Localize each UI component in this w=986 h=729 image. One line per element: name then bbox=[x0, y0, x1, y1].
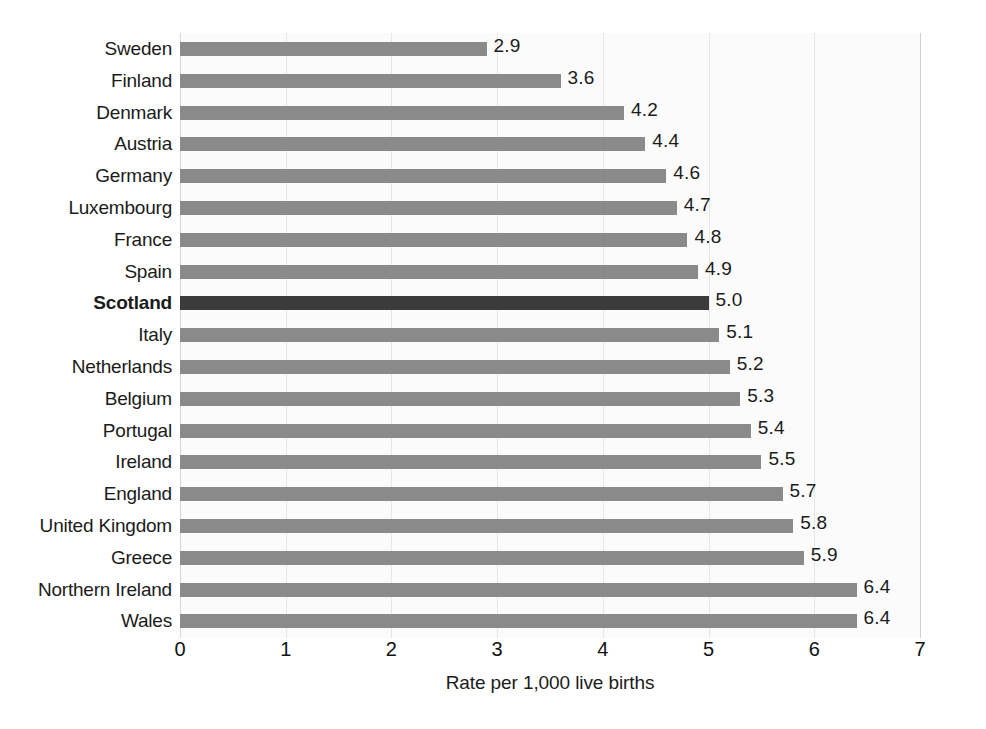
bar-value-label: 4.4 bbox=[652, 130, 679, 152]
x-tick-label: 6 bbox=[809, 638, 820, 661]
bar-value-label: 5.1 bbox=[726, 321, 753, 343]
bar-value-label: 4.7 bbox=[684, 194, 711, 216]
x-axis-title: Rate per 1,000 live births bbox=[180, 672, 920, 694]
bar-value-label: 4.9 bbox=[705, 258, 732, 280]
category-label: Wales bbox=[0, 605, 172, 637]
bar-row: 5.0 bbox=[180, 287, 920, 319]
bar-value-label: 5.8 bbox=[800, 512, 827, 534]
bar bbox=[180, 106, 624, 120]
x-tick-label: 5 bbox=[703, 638, 714, 661]
category-label: Sweden bbox=[0, 33, 172, 65]
x-axis-ticks: 01234567 bbox=[180, 638, 920, 672]
bar bbox=[180, 392, 740, 406]
category-axis-labels: SwedenFinlandDenmarkAustriaGermanyLuxemb… bbox=[0, 33, 172, 638]
bar-value-label: 4.8 bbox=[694, 226, 721, 248]
category-label: Spain bbox=[0, 256, 172, 288]
bar bbox=[180, 519, 793, 533]
bar bbox=[180, 455, 761, 469]
bar bbox=[180, 424, 751, 438]
bar-value-label: 6.4 bbox=[864, 607, 891, 629]
bar-row: 4.6 bbox=[180, 160, 920, 192]
x-tick-label: 1 bbox=[280, 638, 291, 661]
chart-figure: SwedenFinlandDenmarkAustriaGermanyLuxemb… bbox=[0, 0, 986, 729]
bar bbox=[180, 169, 666, 183]
bar-value-label: 4.2 bbox=[631, 99, 658, 121]
bar bbox=[180, 614, 857, 628]
x-tick-label: 3 bbox=[492, 638, 503, 661]
category-label: Northern Ireland bbox=[0, 574, 172, 606]
bar-value-label: 5.3 bbox=[747, 385, 774, 407]
bar-row: 4.8 bbox=[180, 224, 920, 256]
x-tick-label: 4 bbox=[597, 638, 608, 661]
bar bbox=[180, 487, 783, 501]
category-label: Greece bbox=[0, 542, 172, 574]
bar-row: 5.9 bbox=[180, 542, 920, 574]
category-label: France bbox=[0, 224, 172, 256]
bar-row: 5.4 bbox=[180, 415, 920, 447]
bar-row: 5.7 bbox=[180, 478, 920, 510]
bar-value-label: 4.6 bbox=[673, 162, 700, 184]
x-tick-label: 7 bbox=[914, 638, 925, 661]
bar bbox=[180, 328, 719, 342]
bar-value-label: 6.4 bbox=[864, 576, 891, 598]
bar-value-label: 5.7 bbox=[790, 480, 817, 502]
category-label: Ireland bbox=[0, 446, 172, 478]
bar-row: 4.9 bbox=[180, 256, 920, 288]
category-label: Belgium bbox=[0, 383, 172, 415]
bar-row: 5.3 bbox=[180, 383, 920, 415]
bar-value-label: 2.9 bbox=[494, 35, 521, 57]
category-label: Italy bbox=[0, 319, 172, 351]
category-label: United Kingdom bbox=[0, 510, 172, 542]
bar bbox=[180, 201, 677, 215]
bar-value-label: 3.6 bbox=[568, 67, 595, 89]
x-tick-label: 2 bbox=[386, 638, 397, 661]
category-label: Finland bbox=[0, 65, 172, 97]
bar bbox=[180, 74, 561, 88]
category-label: Luxembourg bbox=[0, 192, 172, 224]
bar-row: 4.7 bbox=[180, 192, 920, 224]
bar-row: 4.4 bbox=[180, 128, 920, 160]
category-label: Austria bbox=[0, 128, 172, 160]
bar-row: 2.9 bbox=[180, 33, 920, 65]
bar-row: 5.8 bbox=[180, 510, 920, 542]
bar bbox=[180, 233, 687, 247]
bar bbox=[180, 137, 645, 151]
category-label: Scotland bbox=[0, 287, 172, 319]
bar bbox=[180, 42, 487, 56]
category-label: England bbox=[0, 478, 172, 510]
plot-area: 2.93.64.24.44.64.74.84.95.05.15.25.35.45… bbox=[180, 33, 920, 638]
bar-value-label: 5.0 bbox=[716, 289, 743, 311]
bar-value-label: 5.2 bbox=[737, 353, 764, 375]
bar-value-label: 5.5 bbox=[768, 448, 795, 470]
bar-row: 6.4 bbox=[180, 605, 920, 637]
category-label: Portugal bbox=[0, 415, 172, 447]
bar-value-label: 5.4 bbox=[758, 417, 785, 439]
bar bbox=[180, 265, 698, 279]
category-label: Germany bbox=[0, 160, 172, 192]
bar bbox=[180, 583, 857, 597]
bar-value-label: 5.9 bbox=[811, 544, 838, 566]
bar-row: 5.2 bbox=[180, 351, 920, 383]
bar-row: 4.2 bbox=[180, 97, 920, 129]
category-label: Denmark bbox=[0, 97, 172, 129]
bar-row: 5.5 bbox=[180, 446, 920, 478]
bar-row: 5.1 bbox=[180, 319, 920, 351]
x-tick-label: 0 bbox=[174, 638, 185, 661]
category-label: Netherlands bbox=[0, 351, 172, 383]
gridline-7 bbox=[920, 33, 921, 638]
bar bbox=[180, 360, 730, 374]
bar-row: 6.4 bbox=[180, 574, 920, 606]
bar bbox=[180, 551, 804, 565]
bar-highlight bbox=[180, 296, 709, 310]
bar-row: 3.6 bbox=[180, 65, 920, 97]
